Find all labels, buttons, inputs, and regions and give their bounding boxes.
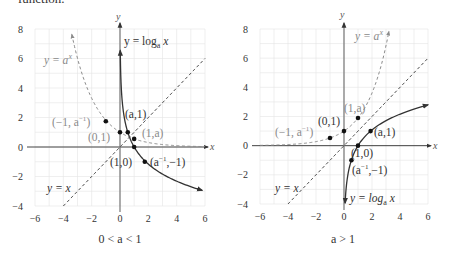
y-tick-label: −2 — [237, 169, 248, 180]
data-point — [125, 130, 130, 135]
data-point — [328, 136, 333, 141]
point-label-a-1-right: (a,1) — [374, 126, 396, 139]
point-label-1-a-right: (1,a) — [344, 102, 366, 115]
y-tick-label: −2 — [12, 171, 23, 182]
data-point — [342, 129, 347, 134]
chart-right: −6−4−2024686420−2−4 y x y = ax y = loga … — [237, 9, 438, 246]
x-tick-label: 6 — [203, 213, 208, 224]
y-tick-label: 4 — [243, 82, 248, 93]
y-tick-label: 6 — [18, 53, 23, 64]
x-tick-label: −4 — [283, 211, 294, 222]
y-tick-label: 0 — [243, 140, 248, 151]
point-label-0-1-right: (0,1) — [318, 115, 340, 128]
data-point — [142, 159, 147, 164]
y-tick-label: 6 — [243, 53, 248, 64]
x-tick-label: 4 — [398, 211, 403, 222]
point-label-a-1-left: (a,1) — [125, 108, 147, 121]
x-tick-label: 0 — [342, 211, 347, 222]
point-label-neg1-left: (−1, a−1) — [52, 115, 90, 129]
identity-line-label-right: y = x — [274, 182, 300, 195]
y-tick-label: 8 — [18, 24, 23, 35]
x-tick-label: 6 — [426, 211, 431, 222]
ticks-left: −6−4−2024686420−2−4 — [12, 24, 207, 225]
data-point — [104, 119, 109, 124]
point-label-1-0-right: (1,0) — [351, 147, 373, 160]
x-tick-label: 0 — [118, 213, 123, 224]
caption-right: a > 1 — [331, 232, 355, 246]
y-tick-label: 2 — [243, 111, 248, 122]
chart-figure: −6−4−2024686420−2−4 y x y = loga x y = a… — [0, 0, 452, 256]
chart-left: −6−4−2024686420−2−4 y x y = loga x y = a… — [12, 11, 215, 246]
point-label-ainv-left: (a−1,−1) — [150, 155, 186, 169]
x-axis-label-left: x — [209, 141, 215, 152]
point-label-0-1-left: (0,1) — [88, 131, 110, 144]
y-axis-label-right: y — [339, 9, 345, 20]
y-tick-label: −4 — [237, 199, 248, 210]
log-curve-label-right: y = loga x — [349, 192, 396, 207]
y-axis-label-left: y — [115, 11, 121, 22]
x-tick-label: −6 — [255, 211, 266, 222]
series-log — [120, 50, 202, 190]
exp-curve-label-right: y = ax — [354, 28, 383, 43]
x-tick-label: 2 — [146, 213, 151, 224]
y-tick-label: 2 — [18, 112, 23, 123]
y-tick-label: 4 — [18, 83, 23, 94]
point-label-1-a-left: (1,a) — [142, 127, 164, 140]
point-label-neg1-right: (−1, a−1) — [275, 125, 313, 139]
x-tick-label: −4 — [58, 213, 69, 224]
y-tick-label: 8 — [243, 24, 248, 35]
data-point — [356, 116, 361, 121]
x-tick-label: 4 — [174, 213, 179, 224]
x-tick-label: −2 — [86, 213, 97, 224]
y-tick-label: −4 — [12, 201, 23, 212]
x-axis-label-right: x — [432, 140, 438, 151]
identity-line-label-left: y = x — [46, 182, 72, 195]
data-point — [132, 137, 137, 142]
exp-curve-label-left: y = ax — [43, 52, 72, 67]
caption-left: 0 < a < 1 — [99, 232, 142, 246]
y-tick-label: 0 — [18, 142, 23, 153]
point-label-1-0-left: (1,0) — [110, 156, 132, 169]
data-point — [132, 145, 137, 150]
x-tick-label: −2 — [311, 211, 322, 222]
point-label-ainv-right: (a−1,−1) — [352, 163, 388, 177]
data-point — [118, 130, 123, 135]
data-point — [368, 129, 373, 134]
x-tick-label: 2 — [370, 211, 375, 222]
x-tick-label: −6 — [30, 213, 41, 224]
